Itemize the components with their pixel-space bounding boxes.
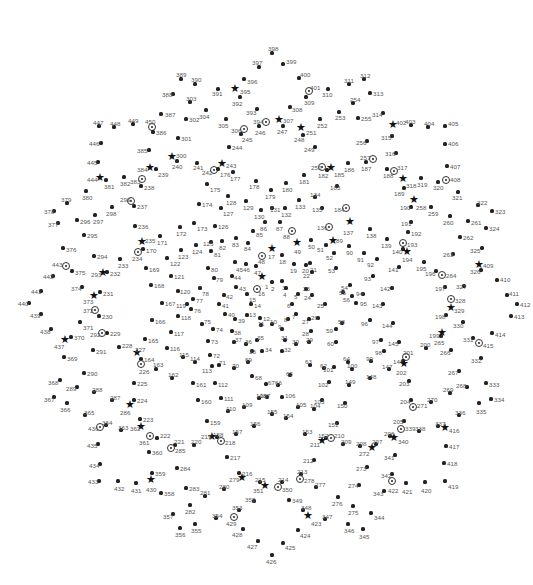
point-label: 346 <box>344 527 354 534</box>
dot-icon <box>490 331 493 334</box>
point-label: 301 <box>181 135 191 142</box>
point-label: 173 <box>197 225 207 232</box>
point-label: 151 <box>328 421 338 428</box>
point-label: 259 <box>428 210 438 217</box>
point-label: 340 <box>398 438 408 445</box>
point-label: 70 <box>232 362 239 369</box>
dot-icon <box>184 486 187 489</box>
dot-icon <box>150 318 153 321</box>
point-label: 7 <box>292 313 295 320</box>
dot-icon <box>75 218 78 221</box>
point-label: 292 <box>90 331 100 338</box>
dot-icon <box>213 381 216 384</box>
dot-icon <box>151 130 154 133</box>
point-label: 281 <box>200 489 210 496</box>
dot-icon <box>445 164 448 167</box>
point-label: 333 <box>489 381 499 388</box>
dot-icon <box>310 270 313 273</box>
point-label: 229 <box>110 330 120 337</box>
point-label: 378 <box>44 208 54 215</box>
dot-icon <box>134 481 137 484</box>
point-label: 275 <box>348 509 358 516</box>
point-label: 219 <box>201 433 211 440</box>
point-label: 319 <box>417 181 427 188</box>
point-label: 305 <box>218 122 228 129</box>
star-icon: ★ <box>437 327 447 339</box>
point-label: 227 <box>135 346 145 353</box>
point-label: 171 <box>157 239 167 246</box>
point-label: 294 <box>97 253 107 260</box>
point-label: 135 <box>312 206 322 213</box>
point-label: 316 <box>385 150 395 157</box>
dot-icon <box>368 227 371 230</box>
point-label: 244 <box>232 144 242 151</box>
point-label: 436 <box>88 425 98 432</box>
point-label: 400 <box>300 71 310 78</box>
dot-icon <box>354 301 357 304</box>
dot-icon <box>368 91 371 94</box>
dot-icon <box>175 466 178 469</box>
point-label: 184 <box>334 206 344 213</box>
point-label: 422 <box>388 487 398 494</box>
point-label: 246 <box>255 129 265 136</box>
point-label: 334 <box>494 396 504 403</box>
dot-icon <box>423 480 426 483</box>
dot-icon <box>270 280 273 283</box>
point-label: 18 <box>279 258 286 265</box>
point-label: 83 <box>232 241 239 248</box>
star-icon: ★ <box>345 216 355 228</box>
point-label: 299 <box>120 196 130 203</box>
point-label: 19 <box>290 267 297 274</box>
point-label: 134 <box>310 191 320 198</box>
point-label: 270 <box>427 396 437 403</box>
point-label: 31 <box>281 334 288 341</box>
dot-icon <box>223 312 226 315</box>
dot-icon <box>281 62 284 65</box>
point-label: 341 <box>384 454 394 461</box>
point-label: 412 <box>520 301 530 308</box>
point-label: 22 <box>303 272 310 279</box>
point-label: 408 <box>450 176 460 183</box>
point-label: 75 <box>204 318 211 325</box>
dot-icon <box>205 419 208 422</box>
dot-icon <box>139 184 142 187</box>
point-label: 157 <box>232 428 242 435</box>
point-label: 320 <box>433 184 443 191</box>
point-label: 200 <box>420 341 430 348</box>
point-label: 353 <box>232 504 242 511</box>
dot-icon <box>176 314 179 317</box>
point-label: 140 <box>392 248 402 255</box>
dot-icon <box>143 337 146 340</box>
point-label: 88 <box>283 233 290 240</box>
point-label: 380 <box>82 194 92 201</box>
point-label: 242 <box>202 169 212 176</box>
dot-icon <box>227 145 230 148</box>
point-label: 44 <box>234 274 241 281</box>
point-label: 261 <box>471 219 481 226</box>
point-label: 111 <box>224 395 233 402</box>
point-label: 189 <box>394 190 404 197</box>
point-label: 79 <box>216 276 223 283</box>
point-label: 145 <box>388 340 398 347</box>
point-label: 103 <box>314 398 324 405</box>
dot-icon <box>257 124 260 127</box>
point-label: 202 <box>396 369 406 376</box>
point-label: 374 <box>71 285 81 292</box>
circled-dot-icon <box>296 475 304 483</box>
dot-icon <box>213 224 216 227</box>
point-label: 27 <box>302 318 309 325</box>
dot-icon <box>406 230 409 233</box>
dot-icon <box>350 294 353 297</box>
point-label: 277 <box>315 481 325 488</box>
dot-icon <box>249 302 252 305</box>
dot-icon <box>159 112 162 115</box>
point-label: 17 <box>268 253 275 260</box>
circled-dot-icon <box>442 176 450 184</box>
point-label: 300 <box>176 152 186 159</box>
point-label: 311 <box>344 77 354 84</box>
point-label: 80 <box>211 266 218 273</box>
point-label: 29 <box>306 336 313 343</box>
point-label: 382 <box>120 180 130 187</box>
point-label: 271 <box>417 402 427 409</box>
circled-dot-icon <box>62 262 70 270</box>
